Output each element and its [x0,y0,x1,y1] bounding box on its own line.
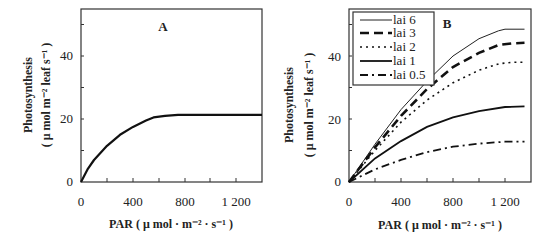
x-tick-label: 1 200 [490,194,519,209]
x-ticks-b [375,178,505,182]
panel-label-b: B [443,16,452,31]
legend-label: lai 2 [393,39,416,54]
x-tick-label: 800 [175,194,195,209]
y-axis-units-a: ( μ mol m⁻² leaf s⁻¹ ) [39,43,53,148]
legend-label: lai 0.5 [393,67,426,82]
x-tick-label: 400 [391,194,411,209]
y-axis-title-a: Photosynthesis [21,57,35,133]
y-tick-label: 20 [328,112,341,127]
x-tick-label: 0 [346,194,353,209]
x-tick-label: 0 [78,194,85,209]
x-axis-title-a: PAR ( μ mol · m⁻² · s⁻¹ ) [109,217,233,231]
y-tick-label: 0 [335,174,342,189]
y-tick-label: 40 [328,49,341,64]
x-ticks-a [107,178,236,182]
panel-b: 0 20 40 0 400 800 1 200 PAR ( μ mol · m⁻… [282,9,531,232]
y-axis-title-b: Photosynthesis [282,67,296,143]
figure: 0 20 40 0 400 800 1 200 PAR ( μ mol · m⁻… [0,0,547,242]
y-axis-units-b: ( μ mol m⁻² leaf s⁻¹ ) [302,53,316,158]
panel-a: 0 20 40 0 400 800 1 200 PAR ( μ mol · m⁻… [21,9,262,231]
x-tick-label: 400 [123,194,143,209]
y-tick-label: 20 [60,111,73,126]
panel-label-a: A [158,19,168,34]
legend: lai 6 lai 3 lai 2 lai 1 lai 0.5 [353,12,434,85]
x-tick-label: 800 [443,194,463,209]
legend-label: lai 1 [393,53,416,68]
y-tick-label: 40 [60,48,73,63]
plot-frame-a [81,9,262,182]
x-tick-label: 1 200 [221,194,250,209]
x-axis-title-b: PAR ( μ mol · m⁻² · s⁻¹ ) [378,218,502,232]
series-line-a [81,115,262,182]
legend-label: lai 3 [393,25,416,40]
y-tick-label: 0 [67,174,74,189]
